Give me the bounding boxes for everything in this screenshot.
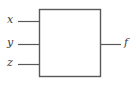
input-label-x: x [7,14,13,25]
output-label-f: f [124,37,128,48]
input-label-y: y [7,37,13,48]
block-diagram: x y z f [0,0,136,88]
logic-block-rect [40,10,101,77]
diagram-canvas [0,0,136,88]
input-label-z: z [7,57,13,68]
